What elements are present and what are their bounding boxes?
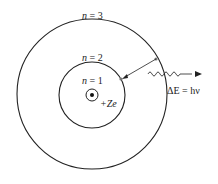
label-n1: n = 1 (82, 75, 103, 86)
label-n2: n = 2 (82, 52, 103, 63)
bohr-diagram: n = 3 n = 2 n = 1 +Ze ΔE = hν (0, 0, 218, 184)
photon-arrowhead-icon (195, 71, 202, 77)
nucleus-charge-label: +Ze (100, 98, 117, 109)
electron-n2 (119, 77, 122, 80)
transition-arrow (125, 59, 156, 77)
nucleus-dot (90, 93, 94, 97)
photon-wave-icon (148, 72, 192, 76)
photon-energy-label: ΔE = hν (167, 85, 200, 96)
label-n3: n = 3 (82, 10, 103, 21)
arrowhead-icon (122, 74, 128, 79)
